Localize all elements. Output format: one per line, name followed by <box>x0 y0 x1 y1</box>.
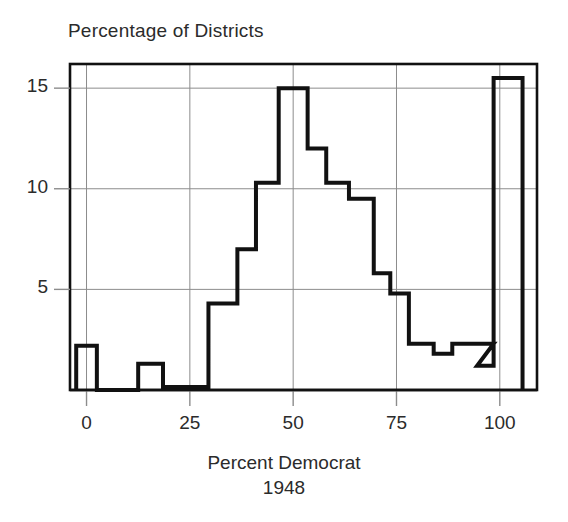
histogram-step-outline <box>76 78 522 390</box>
y-axis-title: Percentage of Districts <box>68 20 264 42</box>
x-tick-label-25: 25 <box>150 412 230 434</box>
x-axis-title-line2: 1948 <box>0 477 568 499</box>
y-tick-label-15: 15 <box>0 75 48 97</box>
plot-frame <box>70 64 537 390</box>
x-tick-label-75: 75 <box>356 412 436 434</box>
chart-figure: Percentage of Districts Percent Democrat… <box>0 0 568 522</box>
y-tick-label-10: 10 <box>0 176 48 198</box>
x-axis-title-line1: Percent Democrat <box>0 452 568 474</box>
x-tick-label-0: 0 <box>47 412 127 434</box>
x-tick-label-50: 50 <box>253 412 333 434</box>
histogram-plot <box>0 0 568 522</box>
x-tick-label-100: 100 <box>460 412 540 434</box>
y-tick-label-5: 5 <box>0 276 48 298</box>
